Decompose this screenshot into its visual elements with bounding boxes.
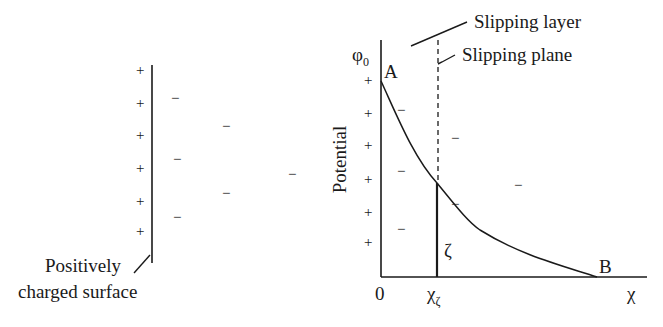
plus-sign: + — [364, 73, 372, 88]
plus-sign: + — [136, 128, 144, 143]
origin-label: 0 — [375, 284, 385, 303]
minus-sign: − — [173, 210, 181, 225]
plus-sign: + — [136, 224, 144, 239]
plus-sign: + — [136, 161, 144, 176]
point-b-label: B — [599, 257, 612, 276]
minus-sign: − — [288, 167, 296, 182]
slipping-plane-leader — [438, 55, 455, 64]
plus-sign: + — [364, 172, 372, 187]
surface-label-line1: Positively — [45, 256, 121, 275]
plus-sign: + — [364, 235, 372, 250]
surface-label-line2: charged surface — [18, 282, 137, 301]
minus-sign: − — [451, 131, 459, 146]
surface-leader-line — [134, 255, 150, 273]
slipping-layer-leader — [411, 22, 467, 46]
minus-sign: − — [451, 197, 459, 212]
phi-zero-label: φ0 — [352, 45, 369, 68]
plus-sign: + — [136, 194, 144, 209]
plus-sign: + — [364, 205, 372, 220]
minus-sign: − — [397, 222, 405, 237]
slipping-layer-label: Slipping layer — [474, 12, 581, 31]
minus-sign: − — [173, 152, 181, 167]
plus-sign: + — [136, 96, 144, 111]
point-a-label: A — [384, 62, 398, 81]
plus-sign: + — [364, 106, 372, 121]
y-axis-label: Potential — [330, 126, 349, 194]
minus-sign: − — [171, 91, 179, 106]
plus-sign: + — [136, 63, 144, 78]
minus-sign: − — [222, 186, 230, 201]
chi-subscript: ζ — [435, 294, 440, 308]
slipping-plane-label: Slipping plane — [462, 45, 572, 64]
minus-sign: − — [222, 119, 230, 134]
phi-subscript: 0 — [363, 55, 369, 69]
x-axis-label: χ — [627, 284, 635, 303]
potential-curve — [381, 81, 597, 277]
plus-sign: + — [364, 138, 372, 153]
minus-sign: − — [397, 164, 405, 179]
phi-symbol: φ — [352, 44, 363, 65]
x-zeta-label: χζ — [427, 284, 440, 307]
minus-sign: − — [397, 103, 405, 118]
zeta-label: ζ — [444, 241, 452, 260]
minus-sign: − — [514, 178, 522, 193]
